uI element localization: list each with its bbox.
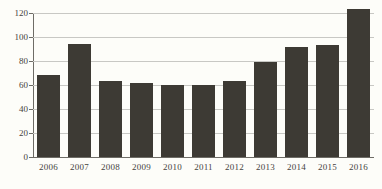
plot-area: 020406080100120 xyxy=(33,13,374,157)
bar xyxy=(347,9,369,157)
y-tick-label: 40 xyxy=(0,105,28,114)
y-tick-label: 100 xyxy=(0,33,28,42)
bar-chart: 020406080100120 200620072008200920102011… xyxy=(0,0,382,189)
bar xyxy=(192,85,214,157)
x-tick-label: 2006 xyxy=(33,162,64,173)
bar xyxy=(254,62,276,157)
x-tick-label: 2009 xyxy=(126,162,157,173)
bar xyxy=(130,83,152,157)
bar xyxy=(223,81,245,157)
y-tick-label: 60 xyxy=(0,81,28,90)
bar xyxy=(68,44,90,157)
bar xyxy=(316,45,338,157)
x-tick-label: 2016 xyxy=(343,162,374,173)
x-axis-baseline xyxy=(33,157,374,158)
x-tick-label: 2011 xyxy=(188,162,219,173)
bar xyxy=(285,47,307,157)
x-tick-label: 2014 xyxy=(281,162,312,173)
y-tick-label: 120 xyxy=(0,9,28,18)
bar xyxy=(99,81,121,157)
x-tick-label: 2008 xyxy=(95,162,126,173)
y-tick-mark xyxy=(29,157,33,158)
y-tick-label: 80 xyxy=(0,57,28,66)
bar xyxy=(161,85,183,157)
x-axis-labels: 2006200720082009201020112012201320142015… xyxy=(33,162,374,176)
x-tick-label: 2012 xyxy=(219,162,250,173)
x-tick-label: 2010 xyxy=(157,162,188,173)
x-tick-label: 2015 xyxy=(312,162,343,173)
y-tick-label: 20 xyxy=(0,129,28,138)
bar xyxy=(37,75,59,157)
y-tick-label: 0 xyxy=(0,153,28,162)
x-tick-label: 2013 xyxy=(250,162,281,173)
x-tick-label: 2007 xyxy=(64,162,95,173)
bar-series xyxy=(33,13,374,157)
